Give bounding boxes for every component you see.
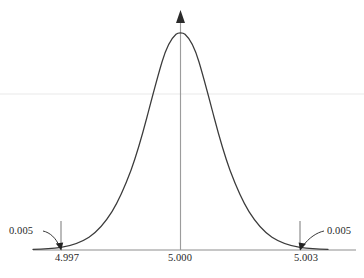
tail-probability-label-left: 0.005 [9, 226, 33, 237]
x-tick-label-left: 4.997 [44, 253, 90, 264]
axis-arrowhead-icon [176, 10, 185, 23]
x-tick-label-right: 5.003 [283, 253, 329, 264]
bell-curve-figure: 4.997 5.000 5.003 0.005 0.005 [0, 0, 364, 278]
tail-probability-label-right: 0.005 [327, 226, 351, 237]
leader-arrowhead-left-icon [56, 243, 63, 251]
figure-canvas [0, 0, 364, 278]
x-tick-label-center: 5.000 [157, 253, 203, 264]
leader-line-right [303, 231, 325, 247]
